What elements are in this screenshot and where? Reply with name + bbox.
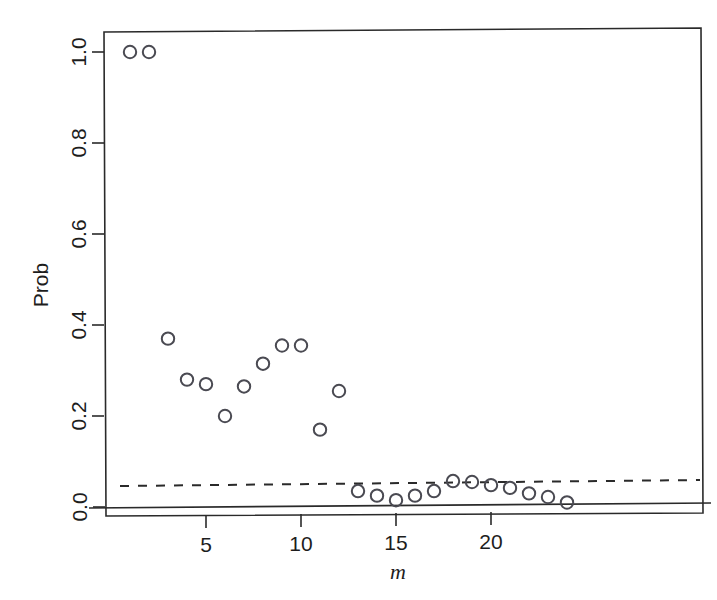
data-point bbox=[295, 339, 307, 351]
plot-frame bbox=[104, 28, 703, 516]
data-point bbox=[314, 423, 326, 435]
data-point bbox=[124, 46, 136, 58]
y-tick-label-2: 0.8 bbox=[67, 128, 90, 157]
data-point bbox=[257, 357, 269, 369]
y-tick-label-5: 0.2 bbox=[67, 401, 90, 430]
data-point bbox=[485, 479, 497, 491]
data-point bbox=[371, 489, 383, 501]
x-tick-label-4: 20 bbox=[479, 530, 502, 553]
data-point bbox=[333, 385, 345, 397]
y-axis-ticks bbox=[92, 52, 105, 507]
data-point bbox=[561, 496, 573, 508]
data-point bbox=[143, 46, 155, 58]
x-axis-title: m bbox=[390, 559, 406, 584]
data-points-layer bbox=[124, 46, 573, 509]
data-point bbox=[523, 487, 535, 499]
y-axis-tick-labels: 1.0 0.8 0.6 0.4 0.2 0.0 bbox=[67, 37, 91, 521]
data-point bbox=[162, 332, 174, 344]
x-axis-tick-labels: 5 10 15 20 bbox=[200, 530, 503, 556]
data-point bbox=[352, 485, 364, 497]
data-point bbox=[409, 489, 421, 501]
data-point bbox=[542, 491, 554, 503]
plot-svg: 1.0 0.8 0.6 0.4 0.2 0.0 Prob 5 10 15 20 … bbox=[0, 0, 717, 600]
x-tick-label-3: 15 bbox=[384, 531, 407, 554]
data-point bbox=[504, 482, 516, 494]
data-point bbox=[238, 380, 250, 392]
data-point bbox=[181, 373, 193, 385]
scatter-plot-figure: 1.0 0.8 0.6 0.4 0.2 0.0 Prob 5 10 15 20 … bbox=[0, 0, 717, 600]
significance-reference-line bbox=[120, 480, 700, 486]
x-tick-label-2: 10 bbox=[289, 532, 312, 555]
data-point bbox=[390, 494, 402, 506]
data-point bbox=[200, 378, 212, 390]
y-tick-label-6: 0.0 bbox=[68, 492, 91, 521]
data-point bbox=[428, 485, 440, 497]
data-point bbox=[276, 339, 288, 351]
x-tick-label-1: 5 bbox=[200, 533, 212, 556]
data-point bbox=[219, 410, 231, 422]
data-point bbox=[447, 475, 459, 487]
y-tick-label-4: 0.4 bbox=[67, 310, 90, 340]
y-tick-label-3: 0.6 bbox=[67, 219, 90, 248]
y-axis-title: Prob bbox=[29, 263, 52, 307]
y-tick-label-1: 1.0 bbox=[67, 37, 90, 66]
